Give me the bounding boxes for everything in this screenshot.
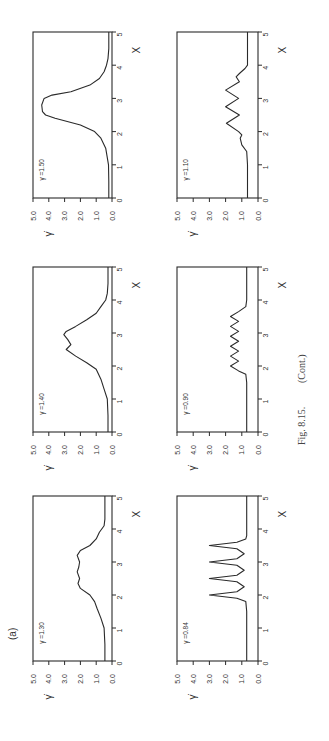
- y-tick-label: 2.0: [222, 211, 229, 221]
- x-tick-label: 0: [262, 198, 269, 202]
- x-tick-label: 2: [262, 595, 269, 599]
- y-tick-label: 5.0: [30, 445, 37, 455]
- x-axis-label: X: [277, 510, 288, 517]
- x-tick-label: 4: [116, 300, 123, 304]
- panel-col2-row2: 0123450.01.02.03.04.05.0Xγ̇γ =0.90: [174, 267, 289, 471]
- gamma-label: γ =1.40: [38, 393, 46, 415]
- y-tick-label: 1.0: [238, 211, 245, 221]
- y-tick-label: 2.0: [77, 674, 84, 684]
- gamma-label: γ =1.10: [182, 159, 190, 181]
- data-curve: [64, 267, 108, 432]
- x-tick-label: 5: [116, 267, 123, 271]
- y-tick-label: 2.0: [222, 445, 229, 455]
- y-tick-label: 5.0: [174, 211, 181, 221]
- y-tick-label: 1.0: [93, 211, 100, 221]
- x-axis-label: X: [131, 510, 142, 517]
- x-tick-label: 0: [262, 432, 269, 436]
- y-tick-label: 0.0: [255, 211, 262, 221]
- y-tick-label: 3.0: [61, 445, 68, 455]
- x-tick-label: 2: [116, 595, 123, 599]
- y-tick-label: 0.0: [255, 674, 262, 684]
- y-axis-label: γ̇: [187, 465, 198, 471]
- x-tick-label: 1: [262, 399, 269, 403]
- x-tick-label: 1: [116, 399, 123, 403]
- y-tick-label: 3.0: [206, 674, 213, 684]
- gamma-label: γ =0.84: [182, 622, 190, 644]
- data-curve: [226, 32, 248, 198]
- y-tick-label: 5.0: [174, 674, 181, 684]
- y-tick-label: 4.0: [190, 211, 197, 221]
- panel-col1-row2: 0123450.01.02.03.04.05.0Xγ̇γ =1.40: [30, 267, 143, 471]
- y-tick-label: 4.0: [45, 211, 52, 221]
- y-tick-label: 4.0: [190, 445, 197, 455]
- x-tick-label: 3: [262, 562, 269, 566]
- x-tick-label: 3: [262, 333, 269, 337]
- y-tick-label: 1.0: [93, 674, 100, 684]
- panel-set-label: (a): [7, 628, 18, 640]
- x-tick-label: 5: [262, 267, 269, 271]
- panel-col2-row1: 0123450.01.02.03.04.05.0Xγ̇γ =1.10: [174, 32, 289, 237]
- figure-caption: Fig. 8.15. (Cont.): [296, 354, 308, 445]
- x-tick-label: 1: [262, 628, 269, 632]
- x-tick-label: 4: [116, 66, 123, 70]
- gamma-label: γ =1.30: [38, 622, 46, 644]
- data-curve: [231, 267, 247, 432]
- panel-col2-row3: 0123450.01.02.03.04.05.0Xγ̇γ =0.84: [174, 496, 289, 700]
- y-tick-label: 0.0: [109, 211, 116, 221]
- data-curve: [77, 496, 105, 661]
- x-tick-label: 0: [116, 432, 123, 436]
- y-tick-label: 3.0: [206, 211, 213, 221]
- x-tick-label: 4: [116, 529, 123, 533]
- x-tick-label: 1: [116, 165, 123, 169]
- y-tick-label: 5.0: [30, 674, 37, 684]
- gamma-label: γ =0.90: [182, 393, 190, 415]
- x-tick-label: 4: [262, 66, 269, 70]
- y-tick-label: 0.0: [109, 445, 116, 455]
- y-tick-label: 3.0: [206, 445, 213, 455]
- y-axis-label: γ̇: [187, 231, 198, 237]
- y-tick-label: 1.0: [238, 445, 245, 455]
- data-curve: [209, 496, 246, 661]
- y-tick-label: 5.0: [30, 211, 37, 221]
- x-tick-label: 0: [116, 198, 123, 202]
- y-tick-label: 2.0: [222, 674, 229, 684]
- x-axis-label: X: [131, 47, 142, 54]
- x-tick-label: 1: [262, 165, 269, 169]
- y-tick-label: 3.0: [61, 674, 68, 684]
- x-tick-label: 2: [262, 366, 269, 370]
- figure-8-15: 0123450.01.02.03.04.05.0Xγ̇γ =1.50012345…: [0, 0, 329, 741]
- y-tick-label: 1.0: [93, 445, 100, 455]
- caption-label: Fig. 8.15.: [296, 407, 307, 445]
- x-tick-label: 5: [262, 32, 269, 36]
- y-tick-label: 4.0: [190, 674, 197, 684]
- y-tick-label: 1.0: [238, 674, 245, 684]
- x-tick-label: 4: [262, 529, 269, 533]
- y-tick-label: 3.0: [61, 211, 68, 221]
- x-tick-label: 2: [262, 132, 269, 136]
- x-tick-label: 3: [116, 333, 123, 337]
- x-axis-label: X: [277, 281, 288, 288]
- y-tick-label: 0.0: [109, 674, 116, 684]
- x-axis-label: X: [131, 281, 142, 288]
- y-tick-label: 4.0: [45, 445, 52, 455]
- x-tick-label: 0: [116, 661, 123, 665]
- y-tick-label: 4.0: [45, 674, 52, 684]
- x-tick-label: 5: [116, 32, 123, 36]
- x-tick-label: 4: [262, 300, 269, 304]
- x-tick-label: 2: [116, 132, 123, 136]
- y-axis-label: γ̇: [187, 694, 198, 700]
- x-tick-label: 3: [116, 99, 123, 103]
- x-tick-label: 3: [116, 562, 123, 566]
- caption-note: (Cont.): [296, 354, 308, 383]
- gamma-label: γ =1.50: [38, 159, 46, 181]
- x-tick-label: 1: [116, 628, 123, 632]
- x-tick-label: 0: [262, 661, 269, 665]
- data-curve: [42, 32, 109, 198]
- y-axis-label: γ̇: [43, 465, 54, 471]
- x-tick-label: 3: [262, 99, 269, 103]
- x-tick-label: 2: [116, 366, 123, 370]
- y-tick-label: 2.0: [77, 211, 84, 221]
- y-tick-label: 5.0: [174, 445, 181, 455]
- panel-grid: 0123450.01.02.03.04.05.0Xγ̇γ =1.50012345…: [30, 32, 289, 700]
- x-tick-label: 5: [262, 496, 269, 500]
